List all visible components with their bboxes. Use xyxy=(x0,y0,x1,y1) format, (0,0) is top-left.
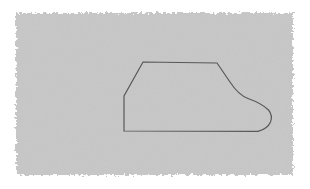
figure-svg xyxy=(0,0,310,189)
paper-grain-texture xyxy=(16,13,293,175)
figure-canvas xyxy=(0,0,310,189)
scan-panel-group xyxy=(16,13,293,175)
